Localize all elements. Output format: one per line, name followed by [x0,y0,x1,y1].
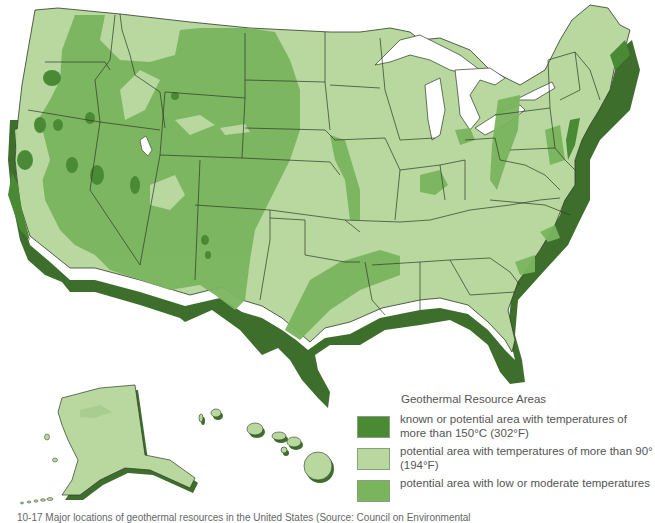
legend-label: potential area with low or moderate temp… [400,477,655,491]
legend-item-high-temp: known or potential area with temperature… [357,416,655,444]
swatch-medium-green [357,480,390,502]
legend-label: known or potential area with temperature… [400,413,655,440]
figure-caption: 10-17 Major locations of geothermal reso… [17,512,471,523]
legend-title: Geothermal Resource Areas [401,393,546,405]
alaska [21,385,199,504]
aleutian-islands [21,434,58,504]
legend-item-low-moderate: potential area with low or moderate temp… [357,480,655,508]
legend-label: potential area with temperatures of more… [400,445,655,472]
hawaii [199,409,334,483]
swatch-light-green [357,448,390,470]
swatch-dark-green [357,416,390,438]
legend-item-potential-90: potential area with temperatures of more… [357,448,655,476]
